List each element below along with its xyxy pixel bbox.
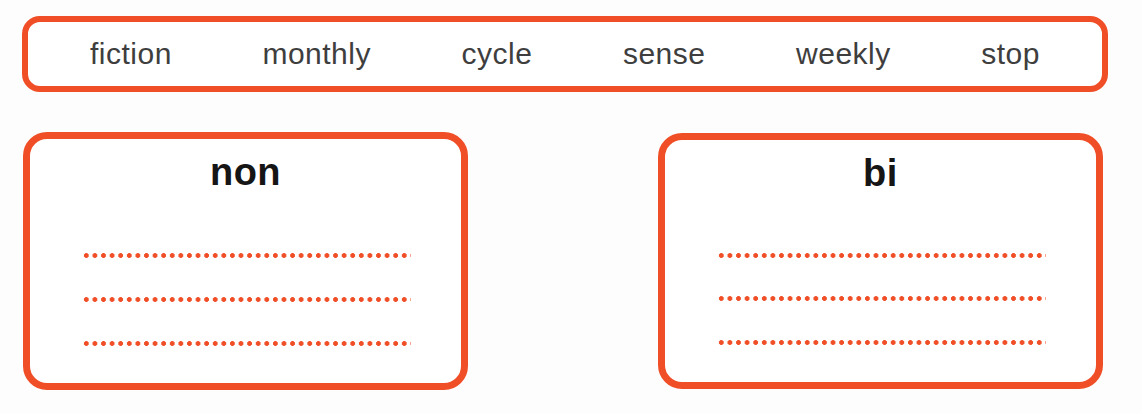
- answer-line-non-1[interactable]: [82, 253, 411, 258]
- word-bank-word-weekly[interactable]: weekly: [796, 37, 891, 71]
- prefix-heading-non: non: [30, 151, 461, 194]
- answer-line-non-3[interactable]: [82, 341, 411, 346]
- word-bank-word-sense[interactable]: sense: [623, 37, 706, 71]
- prefix-box-bi: bi: [658, 133, 1103, 389]
- answer-line-bi-2[interactable]: [717, 296, 1046, 301]
- prefix-heading-bi: bi: [665, 152, 1096, 195]
- answer-lines-non: [82, 233, 411, 365]
- answer-line-bi-3[interactable]: [717, 340, 1046, 345]
- word-bank-word-cycle[interactable]: cycle: [462, 37, 533, 71]
- word-bank: fiction monthly cycle sense weekly stop: [22, 16, 1108, 92]
- worksheet-page: fiction monthly cycle sense weekly stop …: [0, 0, 1142, 414]
- prefix-box-non: non: [23, 132, 468, 390]
- answer-line-non-2[interactable]: [82, 297, 411, 302]
- word-bank-word-stop[interactable]: stop: [981, 37, 1040, 71]
- word-bank-word-monthly[interactable]: monthly: [262, 37, 371, 71]
- word-bank-word-fiction[interactable]: fiction: [90, 37, 172, 71]
- answer-line-bi-1[interactable]: [717, 253, 1046, 258]
- answer-lines-bi: [717, 234, 1046, 364]
